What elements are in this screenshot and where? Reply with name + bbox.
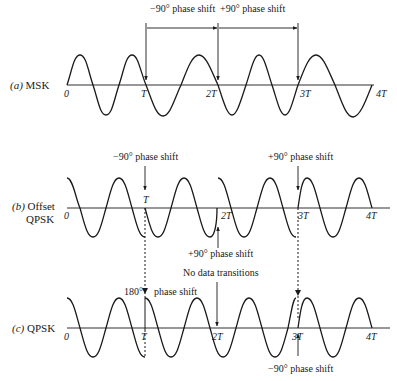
qpsk-waveform bbox=[67, 298, 372, 357]
tick-3T: 3T bbox=[291, 331, 304, 342]
panel-label: (c) QPSK bbox=[12, 322, 55, 335]
tick-T: T bbox=[143, 194, 150, 205]
tick-2T: 2T bbox=[221, 210, 233, 221]
msk-annotation-plus90: +90° phase shift bbox=[220, 3, 285, 14]
tick-0: 0 bbox=[64, 331, 69, 342]
panel-label-line2: QPSK bbox=[26, 213, 54, 225]
panel-qpsk: No data transitions 180° phase shift (c)… bbox=[12, 267, 390, 374]
oqpsk-annotation-3T: +90° phase shift bbox=[268, 151, 333, 162]
tick-T: T bbox=[141, 88, 148, 99]
oqpsk-annotation-T: −90° phase shift bbox=[113, 151, 178, 162]
tick-0: 0 bbox=[64, 210, 69, 221]
tick-T: T bbox=[141, 331, 148, 342]
qpsk-annotation-phase-shift: phase shift bbox=[154, 286, 197, 297]
qpsk-annotation-180: 180° bbox=[124, 286, 143, 297]
tick-4T: 4T bbox=[366, 331, 378, 342]
tick-2T: 2T bbox=[206, 88, 218, 99]
qpsk-annotation-2T: No data transitions bbox=[183, 267, 259, 278]
qpsk-annotation-3T: −90° phase shift bbox=[268, 363, 333, 374]
msk-waveform bbox=[67, 55, 372, 117]
panel-label: (a) MSK bbox=[10, 79, 49, 92]
modulation-phase-diagram: −90° phase shift +90° phase shift (a) MS… bbox=[0, 0, 397, 381]
panel-label: (b) Offset bbox=[12, 200, 55, 213]
tick-2T: 2T bbox=[212, 331, 224, 342]
tick-3T: 3T bbox=[299, 88, 312, 99]
oqpsk-waveform bbox=[67, 178, 372, 237]
qpsk-arrowhead-3T bbox=[295, 290, 301, 296]
panel-offset-qpsk: −90° phase shift +90° phase shift (b) Of… bbox=[12, 151, 390, 330]
tick-4T: 4T bbox=[376, 88, 388, 99]
msk-annotation-minus90: −90° phase shift bbox=[150, 3, 215, 14]
tick-0: 0 bbox=[64, 88, 69, 99]
oqpsk-annotation-2T: +90° phase shift bbox=[188, 248, 253, 259]
tick-3T: 3T bbox=[297, 210, 310, 221]
tick-4T: 4T bbox=[366, 210, 378, 221]
panel-msk: −90° phase shift +90° phase shift (a) MS… bbox=[10, 3, 388, 117]
